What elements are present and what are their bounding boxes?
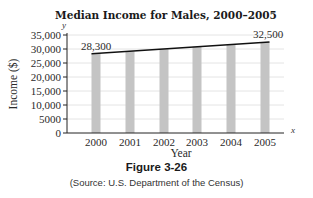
x-axis-variable: x — [290, 125, 295, 135]
y-ticks: 0500010,00015,00020,00025,00030,00035,00… — [31, 29, 67, 139]
x-tick-label: 2004 — [220, 136, 243, 148]
figure-number: Figure 3-26 — [0, 161, 313, 173]
bar — [261, 42, 270, 133]
y-tick-label: 20,000 — [31, 71, 62, 83]
y-tick-label: 15,000 — [31, 85, 62, 97]
trend-line — [92, 42, 270, 54]
bar — [160, 49, 169, 133]
chart-title: Median Income for Males, 2000–2005 — [55, 9, 277, 21]
y-tick-label: 25,000 — [31, 57, 62, 69]
y-tick-label: 5000 — [39, 113, 62, 125]
x-axis-title: Year — [170, 147, 191, 159]
trend-line-segment — [92, 42, 270, 54]
bar — [126, 51, 135, 133]
figure-source: (Source: U.S. Department of the Census) — [0, 177, 313, 188]
x-tick-label: 2001 — [119, 136, 141, 148]
x-tick-label: 2000 — [85, 136, 108, 148]
bar — [193, 47, 202, 133]
bar — [227, 44, 236, 133]
data-label-end: 32,500 — [253, 28, 284, 40]
x-tick-label: 2005 — [254, 136, 277, 148]
y-axis-variable: y — [61, 20, 66, 30]
y-tick-label: 0 — [56, 127, 62, 139]
y-tick-label: 10,000 — [31, 99, 62, 111]
y-tick-label: 35,000 — [31, 29, 62, 41]
y-tick-label: 30,000 — [31, 43, 62, 55]
data-label-start: 28,300 — [81, 40, 112, 52]
bar-chart: Median Income for Males, 2000–2005 28,30… — [0, 0, 313, 160]
bar — [92, 54, 101, 133]
y-axis-title: Income ($) — [7, 58, 20, 109]
